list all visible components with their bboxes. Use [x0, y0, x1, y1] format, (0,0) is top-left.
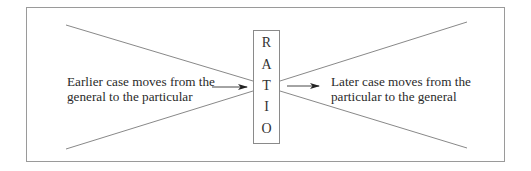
- earlier-case-line1: Earlier case moves from the: [67, 74, 215, 89]
- earlier-case-line2: general to the particular: [67, 89, 215, 104]
- earlier-case-caption: Earlier case moves from the general to t…: [67, 74, 215, 104]
- ratio-letter-t: T: [254, 78, 279, 94]
- ratio-letter-o: O: [254, 121, 279, 137]
- right-upper-line: [280, 22, 467, 81]
- later-case-line1: Later case moves from the: [331, 74, 471, 89]
- later-case-line2: particular to the general: [331, 89, 471, 104]
- ratio-letter-a: A: [254, 57, 279, 73]
- left-upper-line: [66, 25, 253, 81]
- later-case-caption: Later case moves from the particular to …: [331, 74, 471, 104]
- ratio-letter-i: I: [254, 99, 279, 115]
- ratio-box: R A T I O: [253, 30, 280, 144]
- ratio-letter-r: R: [254, 35, 279, 51]
